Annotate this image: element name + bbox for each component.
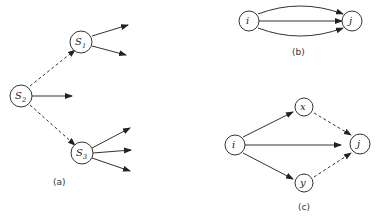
node-c-i: i	[225, 135, 245, 155]
svg-text:1: 1	[82, 42, 86, 50]
node-s3: S 3	[71, 142, 93, 164]
edge-y-j	[314, 153, 351, 177]
caption-b: (b)	[292, 47, 305, 57]
edge-i-y	[243, 153, 293, 179]
svg-text:x: x	[300, 101, 306, 112]
caption-a: (a)	[53, 177, 66, 187]
edge-i-x	[243, 112, 293, 137]
node-c-y: y	[295, 174, 313, 192]
svg-text:3: 3	[83, 153, 87, 161]
node-b-j: j	[342, 11, 362, 31]
svg-text:S: S	[76, 147, 83, 158]
edge-i-j-upper	[258, 6, 343, 14]
svg-text:S: S	[15, 90, 22, 101]
diagram-b: i j (b)	[239, 6, 362, 57]
svg-text:2: 2	[21, 96, 26, 104]
diagram-a: S 2 S 1 S 3 (a)	[10, 25, 131, 187]
svg-text:i: i	[246, 15, 249, 26]
node-s2: S 2	[10, 85, 32, 107]
node-s1: S 1	[70, 31, 92, 53]
diagram-canvas: S 2 S 1 S 3 (a) i j (b)	[0, 0, 386, 219]
svg-text:i: i	[232, 139, 235, 150]
edge-s3-out-2	[93, 150, 131, 153]
node-c-j: j	[350, 134, 370, 154]
edge-i-j-lower	[258, 28, 343, 36]
edge-s3-out-3	[92, 158, 130, 171]
edge-s1-out-1	[92, 25, 128, 36]
edge-x-j	[314, 113, 351, 135]
svg-text:S: S	[75, 36, 82, 47]
edge-s2-s3	[30, 105, 75, 145]
edge-s3-out-1	[92, 128, 130, 148]
caption-c: (c)	[298, 202, 310, 212]
node-b-i: i	[239, 11, 259, 31]
edge-s2-s1	[30, 50, 75, 86]
node-c-x: x	[295, 98, 313, 116]
diagram-c: i x y j (c)	[225, 98, 370, 212]
edge-s1-out-2	[92, 46, 126, 55]
svg-text:y: y	[299, 177, 306, 188]
